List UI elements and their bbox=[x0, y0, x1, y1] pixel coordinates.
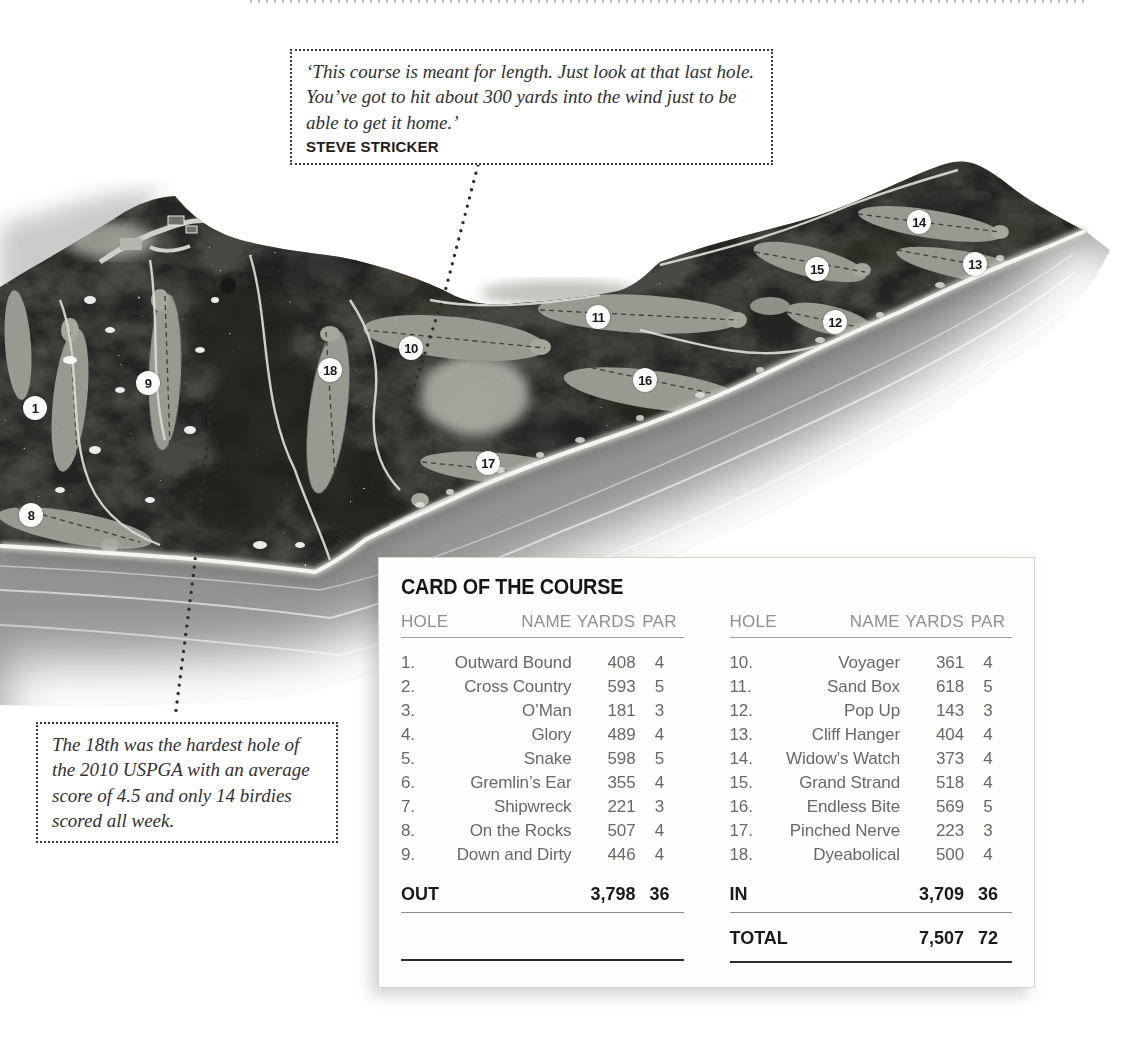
hole-yards: 181 bbox=[572, 699, 636, 723]
table-row: 2.Cross Country5935 bbox=[401, 675, 684, 699]
hole-marker-18: 18 bbox=[318, 358, 342, 382]
hole-name: Endless Bite bbox=[776, 795, 901, 819]
hole-yards: 593 bbox=[572, 675, 636, 699]
hole-marker-label: 12 bbox=[828, 315, 841, 330]
hole-par: 4 bbox=[964, 723, 1012, 747]
table-row: 14.Widow’s Watch3734 bbox=[730, 747, 1013, 771]
hole-marker-label: 17 bbox=[481, 456, 494, 471]
hole-par: 4 bbox=[636, 651, 684, 675]
table-row: 18.Dyeabolical5004 bbox=[730, 843, 1013, 867]
front-final-rule bbox=[401, 959, 684, 961]
back-nine-header: HOLE NAME YARDS PAR bbox=[730, 612, 1013, 632]
hole-par: 5 bbox=[964, 675, 1012, 699]
table-row: 8.On the Rocks5074 bbox=[401, 819, 684, 843]
hole-marker-12: 12 bbox=[823, 310, 847, 334]
hole-par: 3 bbox=[636, 795, 684, 819]
table-row: 13.Cliff Hanger4044 bbox=[730, 723, 1013, 747]
hole-par: 4 bbox=[964, 843, 1012, 867]
col-hole: HOLE bbox=[401, 612, 447, 632]
hole-name: Gremlin’s Ear bbox=[447, 771, 572, 795]
hole-par: 4 bbox=[636, 819, 684, 843]
table-row: 9.Down and Dirty4464 bbox=[401, 843, 684, 867]
hole-marker-10: 10 bbox=[399, 336, 423, 360]
hole-yards: 489 bbox=[572, 723, 636, 747]
hole-number: 12. bbox=[730, 699, 776, 723]
hole-number: 18. bbox=[730, 843, 776, 867]
col-name: NAME bbox=[447, 612, 572, 632]
scorecard-panel: CARD OF THE COURSE HOLE NAME YARDS PAR 1… bbox=[378, 557, 1035, 988]
hole-marker-label: 13 bbox=[968, 257, 981, 272]
hole-par: 5 bbox=[964, 795, 1012, 819]
hole-number: 7. bbox=[401, 795, 447, 819]
table-row: 12.Pop Up1433 bbox=[730, 699, 1013, 723]
table-row: 11.Sand Box6185 bbox=[730, 675, 1013, 699]
hole-name: Sand Box bbox=[776, 675, 901, 699]
hole-number: 2. bbox=[401, 675, 447, 699]
out-par: 36 bbox=[636, 882, 684, 906]
hole-yards: 355 bbox=[572, 771, 636, 795]
header-rule bbox=[730, 637, 1013, 638]
in-label: IN bbox=[730, 882, 901, 906]
hole-number: 8. bbox=[401, 819, 447, 843]
in-par: 36 bbox=[964, 882, 1012, 906]
out-row: OUT 3,798 36 bbox=[401, 882, 684, 906]
table-row: 7.Shipwreck2213 bbox=[401, 795, 684, 819]
hole-marker-label: 1 bbox=[32, 401, 39, 416]
hole-marker-16: 16 bbox=[633, 368, 657, 392]
hole-marker-label: 15 bbox=[810, 262, 823, 277]
hole-name: Shipwreck bbox=[447, 795, 572, 819]
hole-yards: 143 bbox=[900, 699, 964, 723]
hole-yards: 500 bbox=[900, 843, 964, 867]
hole-marker-label: 16 bbox=[638, 373, 651, 388]
quote-attribution: STEVE STRICKER bbox=[306, 138, 759, 155]
col-par: PAR bbox=[964, 612, 1012, 632]
scorecard-title: CARD OF THE COURSE bbox=[401, 574, 951, 600]
hole-name: Voyager bbox=[776, 651, 901, 675]
hole-number: 10. bbox=[730, 651, 776, 675]
hole-par: 4 bbox=[636, 723, 684, 747]
table-row: 4.Glory4894 bbox=[401, 723, 684, 747]
header-rule bbox=[401, 637, 684, 638]
hole-marker-label: 14 bbox=[912, 215, 925, 230]
scorecard-columns: HOLE NAME YARDS PAR 1.Outward Bound4084 … bbox=[401, 612, 1012, 963]
hole-yards: 518 bbox=[900, 771, 964, 795]
hole-par: 4 bbox=[964, 651, 1012, 675]
table-row: 3.O’Man1813 bbox=[401, 699, 684, 723]
hole-name: Cross Country bbox=[447, 675, 572, 699]
hole-number: 3. bbox=[401, 699, 447, 723]
hole-marker-15: 15 bbox=[805, 257, 829, 281]
table-row: 16.Endless Bite5695 bbox=[730, 795, 1013, 819]
hole-number: 15. bbox=[730, 771, 776, 795]
hole-marker-14: 14 bbox=[907, 210, 931, 234]
table-row: 1.Outward Bound4084 bbox=[401, 651, 684, 675]
hole-yards: 361 bbox=[900, 651, 964, 675]
hole-name: Glory bbox=[447, 723, 572, 747]
hole-yards: 569 bbox=[900, 795, 964, 819]
front-nine-rows: 1.Outward Bound4084 2.Cross Country5935 … bbox=[401, 651, 684, 867]
total-row: TOTAL 7,507 72 bbox=[730, 923, 1013, 953]
hole-marker-1: 1 bbox=[23, 396, 47, 420]
in-rule bbox=[730, 912, 1013, 913]
hole-name: Pop Up bbox=[776, 699, 901, 723]
hole-name: O’Man bbox=[447, 699, 572, 723]
hole-yards: 223 bbox=[900, 819, 964, 843]
hole-number: 6. bbox=[401, 771, 447, 795]
hole-yards: 221 bbox=[572, 795, 636, 819]
back-nine-column: HOLE NAME YARDS PAR 10.Voyager3614 11.Sa… bbox=[730, 612, 1013, 963]
hole-par: 4 bbox=[964, 747, 1012, 771]
hole-number: 11. bbox=[730, 675, 776, 699]
front-nine-column: HOLE NAME YARDS PAR 1.Outward Bound4084 … bbox=[401, 612, 684, 963]
hole-name: On the Rocks bbox=[447, 819, 572, 843]
hole-yards: 618 bbox=[900, 675, 964, 699]
hole-yards: 408 bbox=[572, 651, 636, 675]
hole-number: 4. bbox=[401, 723, 447, 747]
note-box: The 18th was the hardest hole of the 201… bbox=[36, 722, 338, 843]
col-par: PAR bbox=[636, 612, 684, 632]
hole-number: 13. bbox=[730, 723, 776, 747]
front-nine-header: HOLE NAME YARDS PAR bbox=[401, 612, 684, 632]
hole-name: Dyeabolical bbox=[776, 843, 901, 867]
hole-par: 3 bbox=[636, 699, 684, 723]
hole-yards: 373 bbox=[900, 747, 964, 771]
table-row: 5.Snake5985 bbox=[401, 747, 684, 771]
total-label: TOTAL bbox=[730, 923, 901, 953]
